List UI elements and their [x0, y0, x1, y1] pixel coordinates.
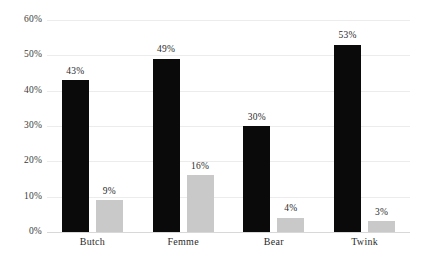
bar[interactable]: [243, 126, 270, 232]
bar[interactable]: [62, 80, 89, 232]
y-axis-tick-label: 20%: [2, 157, 42, 167]
y-axis-tick-label: 40%: [2, 86, 42, 96]
bar-chart: 0%10%20%30%40%50%60% 43%9%49%16%30%4%53%…: [0, 0, 424, 263]
bar-group: 43%9%: [47, 20, 138, 232]
bar-value-label: 4%: [284, 204, 297, 214]
bar-value-label: 9%: [103, 187, 116, 197]
bar-slot: 4%: [277, 20, 304, 232]
bar-group: 49%16%: [138, 20, 229, 232]
bar-value-label: 30%: [248, 113, 266, 123]
bar-value-label: 3%: [375, 208, 388, 218]
bar-slot: 53%: [334, 20, 361, 232]
bar-value-label: 43%: [66, 67, 84, 77]
x-axis-category-label: Twink: [319, 236, 410, 247]
bar-slot: 9%: [96, 20, 123, 232]
bar-value-label: 49%: [157, 45, 175, 55]
plot-area: 43%9%49%16%30%4%53%3%: [47, 20, 410, 232]
bar[interactable]: [277, 218, 304, 232]
bar-slot: 43%: [62, 20, 89, 232]
gridline: [47, 232, 410, 233]
bar[interactable]: [368, 221, 395, 232]
bar[interactable]: [334, 45, 361, 232]
bar-group: 30%4%: [229, 20, 320, 232]
y-axis-tick-label: 0%: [2, 227, 42, 237]
bar[interactable]: [187, 175, 214, 232]
y-axis-tick-label: 30%: [2, 121, 42, 131]
bar-value-label: 53%: [339, 31, 357, 41]
bar[interactable]: [96, 200, 123, 232]
bar-value-label: 16%: [191, 162, 209, 172]
x-axis-category-labels: ButchFemmeBearTwink: [47, 236, 410, 247]
bar-groups: 43%9%49%16%30%4%53%3%: [47, 20, 410, 232]
bar-group: 53%3%: [319, 20, 410, 232]
y-axis-tick-label: 60%: [2, 15, 42, 25]
bar-slot: 3%: [368, 20, 395, 232]
x-axis-category-label: Bear: [229, 236, 320, 247]
x-axis-category-label: Femme: [138, 236, 229, 247]
bar-slot: 49%: [153, 20, 180, 232]
y-axis-tick-label: 50%: [2, 51, 42, 61]
bar-slot: 16%: [187, 20, 214, 232]
bar-slot: 30%: [243, 20, 270, 232]
y-axis-tick-label: 10%: [2, 192, 42, 202]
y-axis-tick-labels: 0%10%20%30%40%50%60%: [0, 20, 42, 232]
x-axis-category-label: Butch: [47, 236, 138, 247]
bar[interactable]: [153, 59, 180, 232]
